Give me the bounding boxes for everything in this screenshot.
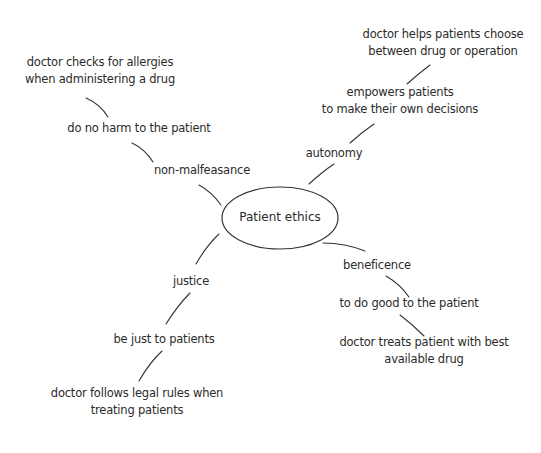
link-do-no-harm-to-allergies <box>86 98 108 117</box>
node-treats-best-drug: doctor treats patient with best availabl… <box>339 334 508 368</box>
node-do-good: to do good to the patient <box>339 295 478 312</box>
link-center-to-autonomy <box>309 164 334 184</box>
branch-non-malfeasance: non-malfeasance <box>154 162 250 179</box>
node-line: doctor helps patients choose <box>363 26 524 43</box>
link-center-to-non-malfeasance <box>199 185 221 205</box>
link-center-to-beneficence <box>323 243 365 251</box>
link-center-to-justice <box>196 234 219 264</box>
link-beneficence-to-do-good <box>386 276 409 297</box>
node-legal-rules: doctor follows legal rules when treating… <box>51 385 223 419</box>
link-autonomy-to-empowers <box>350 124 374 143</box>
branch-beneficence: beneficence <box>343 257 411 274</box>
node-line: doctor checks for allergies <box>25 54 175 71</box>
node-helps-choose: doctor helps patients choose between dru… <box>363 26 524 60</box>
node-line: available drug <box>339 351 508 368</box>
link-empowers-to-helps-choose <box>407 65 430 84</box>
node-line: doctor treats patient with best <box>339 334 508 351</box>
node-checks-allergies: doctor checks for allergies when adminis… <box>25 54 175 88</box>
branch-justice: justice <box>173 273 209 290</box>
link-non-malfeasance-to-do-no-harm <box>132 143 153 162</box>
branch-autonomy: autonomy <box>306 145 363 162</box>
node-line: when administering a drug <box>25 71 175 88</box>
link-justice-to-be-just <box>166 293 190 324</box>
node-do-no-harm: do no harm to the patient <box>67 120 210 137</box>
link-be-just-to-legal-rules <box>139 351 162 381</box>
node-line: to make their own decisions <box>322 101 478 118</box>
node-be-just: be just to patients <box>114 331 215 348</box>
node-line: treating patients <box>51 402 223 419</box>
node-line: between drug or operation <box>363 43 524 60</box>
node-line: doctor follows legal rules when <box>51 385 223 402</box>
node-empowers-patients: empowers patients to make their own deci… <box>322 84 478 118</box>
link-do-good-to-treats <box>400 315 424 336</box>
node-line: empowers patients <box>322 84 478 101</box>
center-node-label: Patient ethics <box>239 210 320 224</box>
